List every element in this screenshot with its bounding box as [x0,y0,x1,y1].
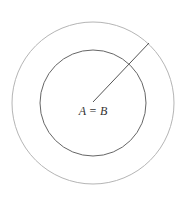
center-label: A = B [78,104,108,118]
concentric-circles-diagram: A = B [0,0,188,197]
radius-line [93,43,149,102]
outer-circle [12,22,174,184]
inner-circle [40,50,146,156]
